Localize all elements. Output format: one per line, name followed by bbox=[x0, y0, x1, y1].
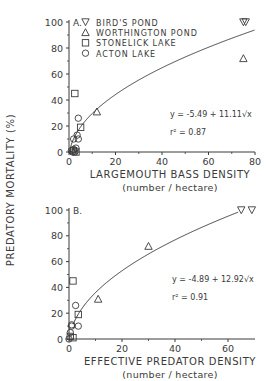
x-tick-label: 0 bbox=[66, 343, 72, 354]
r-squared: r² = 0.87 bbox=[170, 128, 206, 137]
legend-item: BIRD'S POND bbox=[82, 19, 159, 28]
triangle-down-marker bbox=[248, 207, 255, 214]
legend-label: ACTON LAKE bbox=[96, 50, 156, 59]
legend: BIRD'S PONDWORTHINGTON PONDSTONELICK LAK… bbox=[82, 19, 198, 59]
x-axis-units: (number / hectare) bbox=[122, 369, 217, 380]
triangle-up-marker bbox=[94, 295, 101, 302]
r-squared: r² = 0.91 bbox=[172, 293, 208, 302]
x-tick-label: 40 bbox=[156, 156, 168, 167]
x-tick-label: 20 bbox=[116, 343, 128, 354]
fit-equation: y = -4.89 + 12.92√x bbox=[172, 275, 254, 284]
y-tick-label: 80 bbox=[51, 230, 63, 241]
fit-curve bbox=[73, 212, 238, 324]
triangle-down-marker bbox=[238, 207, 245, 214]
legend-item: WORTHINGTON POND bbox=[82, 29, 198, 38]
series-bird-s-pond bbox=[238, 207, 256, 214]
y-tick-label: 80 bbox=[51, 43, 63, 54]
x-tick-label: 60 bbox=[202, 156, 214, 167]
x-axis-title: EFFECTIVE PREDATOR DENSITY bbox=[84, 356, 256, 367]
chart-canvas: 020406080100020406080A.y = -5.49 + 11.11… bbox=[0, 0, 268, 381]
series-bird-s-pond bbox=[240, 19, 250, 26]
x-tick-label: 0 bbox=[66, 156, 72, 167]
panel-tag: B. bbox=[73, 206, 82, 216]
x-tick-label: 20 bbox=[109, 156, 121, 167]
x-tick-label: 80 bbox=[249, 156, 261, 167]
fit-equation: y = -5.49 + 11.11√x bbox=[170, 110, 252, 119]
x-axis-units: (number / hectare) bbox=[122, 182, 217, 193]
legend-label: BIRD'S POND bbox=[96, 19, 159, 28]
legend-item: STONELICK LAKE bbox=[82, 39, 176, 48]
x-axis-title: LARGEMOUTH BASS DENSITY bbox=[90, 169, 251, 180]
circle-marker bbox=[75, 115, 81, 121]
legend-label: STONELICK LAKE bbox=[96, 39, 177, 48]
y-tick-label: 0 bbox=[57, 334, 63, 345]
y-tick-label: 20 bbox=[51, 121, 63, 132]
y-axis-title: PREDATORY MORTALITY (%) bbox=[5, 114, 16, 266]
y-tick-label: 40 bbox=[51, 95, 63, 106]
triangle-down-marker bbox=[82, 19, 89, 26]
y-tick-label: 20 bbox=[51, 308, 63, 319]
square-marker bbox=[82, 40, 88, 46]
y-tick-label: 100 bbox=[45, 205, 63, 216]
legend-label: WORTHINGTON POND bbox=[96, 29, 198, 38]
y-tick-label: 60 bbox=[51, 256, 63, 267]
series-worthington-pond bbox=[94, 242, 152, 302]
circle-marker bbox=[75, 136, 81, 142]
triangle-up-marker bbox=[240, 55, 247, 62]
legend-item: ACTON LAKE bbox=[82, 50, 156, 59]
square-marker bbox=[70, 278, 76, 284]
y-tick-label: 40 bbox=[51, 282, 63, 293]
triangle-up-marker bbox=[145, 242, 152, 249]
panel-tag: A. bbox=[73, 18, 82, 28]
square-marker bbox=[72, 90, 78, 96]
circle-marker bbox=[82, 50, 88, 56]
y-tick-label: 0 bbox=[57, 147, 63, 158]
x-tick-label: 40 bbox=[169, 343, 181, 354]
y-tick-label: 100 bbox=[45, 17, 63, 28]
circle-marker bbox=[72, 302, 78, 308]
y-tick-label: 60 bbox=[51, 69, 63, 80]
circle-marker bbox=[75, 323, 81, 329]
triangle-up-marker bbox=[82, 29, 89, 36]
x-tick-label: 60 bbox=[222, 343, 234, 354]
